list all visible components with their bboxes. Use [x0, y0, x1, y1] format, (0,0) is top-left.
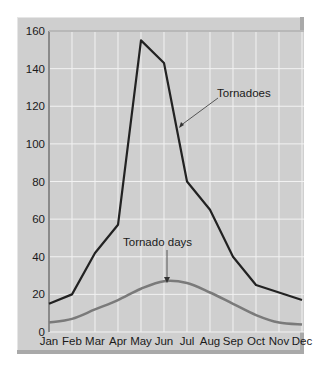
x-tick-label: Apr — [109, 335, 127, 347]
x-tick-label: Aug — [200, 335, 220, 347]
y-tick-label: 160 — [26, 25, 45, 37]
line-chart: 020406080100120140160JanFebMarAprMayJunJ… — [0, 0, 331, 379]
x-tick-label: Jan — [40, 335, 59, 347]
y-tick-label: 20 — [32, 288, 45, 300]
y-tick-label: 80 — [32, 176, 45, 188]
x-tick-label: Sep — [223, 335, 243, 347]
annotation-tornado-days: Tornado days — [123, 236, 192, 248]
y-tick-label: 40 — [32, 251, 45, 263]
y-tick-label: 120 — [26, 100, 45, 112]
x-tick-label: Nov — [269, 335, 290, 347]
y-tick-label: 100 — [26, 138, 45, 150]
x-tick-label: Feb — [62, 335, 82, 347]
x-tick-label: May — [130, 335, 152, 347]
y-tick-label: 60 — [32, 213, 45, 225]
x-tick-label: Jun — [155, 335, 174, 347]
annotation-tornadoes: Tornadoes — [217, 87, 271, 99]
x-tick-label: Mar — [85, 335, 105, 347]
x-tick-label: Dec — [292, 335, 313, 347]
x-tick-label: Oct — [247, 335, 266, 347]
x-tick-label: Jul — [180, 335, 195, 347]
y-tick-label: 140 — [26, 63, 45, 75]
